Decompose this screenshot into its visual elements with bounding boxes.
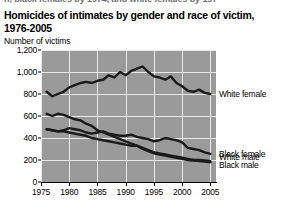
x-tick-mark xyxy=(210,183,211,186)
y-tick-mark xyxy=(38,138,41,139)
y-tick-label: 200 xyxy=(23,155,37,165)
x-tick-label: 1975 xyxy=(32,187,50,197)
x-tick-label: 1995 xyxy=(145,187,163,197)
figure-title-line1: Homicides of intimates by gender and rac… xyxy=(4,9,254,21)
x-axis-line xyxy=(41,182,217,183)
x-tick-mark xyxy=(154,183,155,186)
y-tick-label: 600 xyxy=(23,111,37,121)
y-tick-label: 1,000 xyxy=(17,67,37,77)
x-tick-mark xyxy=(69,183,70,186)
chart-plot-area xyxy=(41,50,216,182)
y-tick-label: 800 xyxy=(23,89,37,99)
x-tick-mark xyxy=(126,183,127,186)
y-tick-label: 1,200 xyxy=(17,45,37,55)
y-tick-mark xyxy=(38,72,41,73)
y-tick-label: 400 xyxy=(23,133,37,143)
y-axis-title: Number of victims xyxy=(4,36,70,46)
y-tick-label: 0 xyxy=(32,177,37,187)
series-line-black-male xyxy=(47,114,211,162)
x-tick-mark xyxy=(97,183,98,186)
x-tick-mark xyxy=(41,183,42,186)
x-tick-mark xyxy=(182,183,183,186)
series-label-black-male: Black male xyxy=(219,160,259,170)
x-tick-label: 1990 xyxy=(117,187,135,197)
y-tick-mark xyxy=(38,50,41,51)
x-tick-label: 2000 xyxy=(173,187,191,197)
series-label-white-female: White female xyxy=(219,89,266,99)
y-tick-mark xyxy=(38,94,41,95)
figure-title-line2: 1976-2005 xyxy=(4,22,52,34)
chart-lines xyxy=(41,50,216,182)
x-tick-label: 2005 xyxy=(201,187,219,197)
x-tick-label: 1980 xyxy=(60,187,78,197)
x-tick-label: 1985 xyxy=(88,187,106,197)
figure-title: Homicides of intimates by gender and rac… xyxy=(4,9,293,34)
series-line-white-female xyxy=(47,67,211,97)
y-tick-mark xyxy=(38,160,41,161)
y-tick-mark xyxy=(38,116,41,117)
clipped-previous-text: n, black females by 1974, and white fema… xyxy=(4,0,294,4)
